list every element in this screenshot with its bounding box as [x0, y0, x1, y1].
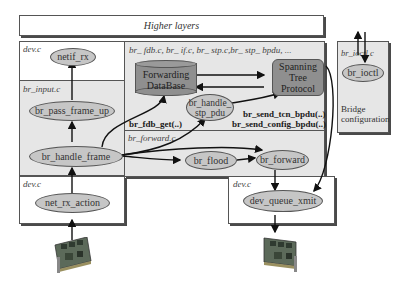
fdb-label-2: DataBase [135, 80, 197, 91]
bridge-files-label: br_ fdb.c, br_ if.c, br_ stp.c,br_ stp_ … [129, 45, 292, 55]
network-card-icon [262, 236, 304, 276]
netif-rx-text: netif_rx [57, 52, 89, 62]
dev-queue-xmit-text: dev_queue_xmit [250, 196, 317, 206]
br-input-c-label: br_input.c [23, 84, 60, 94]
bridge-config-label-2: configuration [341, 114, 390, 124]
br-forward-node: br_forward [256, 150, 309, 170]
dev-c-bottom-right-label: dev.c [233, 179, 251, 189]
br-send-config-bpdu-label: br_send_config_bpdu(..) [232, 119, 326, 129]
net-rx-action-node: net_rx_action [35, 193, 110, 213]
br-flood-node: br_flood [185, 151, 237, 170]
br-ioctl-node: br_ioctl [342, 64, 384, 82]
netif-rx-node: netif_rx [50, 48, 96, 66]
dev-queue-xmit-node: dev_queue_xmit [243, 190, 323, 212]
dev-c-top-label: dev.c [23, 44, 41, 54]
br-flood-text: br_flood [194, 156, 228, 166]
forwarding-database-node: Forwarding DataBase [135, 60, 197, 96]
br-send-tcn-bpdu-label: br_send_tcn_bpdu(..) [243, 109, 326, 119]
br-forward-text: br_forward [260, 155, 305, 165]
br-forward-divider [125, 130, 324, 131]
stp-label-1: Spanning [279, 61, 317, 72]
br-pass-frame-up-text: br_pass_frame_up [35, 106, 109, 116]
stp-label-3: Protocol [281, 83, 315, 94]
higher-layers-box: Higher layers [19, 15, 324, 36]
bridge-config-label-1: Bridge [341, 104, 366, 114]
stp-label-2: Tree [289, 72, 307, 83]
br-handle-frame-node: br_handle_frame [29, 146, 123, 167]
net-rx-action-text: net_rx_action [45, 198, 100, 208]
br-ioctl-c-region: br_ioctl.c Bridge configuration [337, 41, 389, 133]
spanning-tree-protocol-node: Spanning Tree Protocol [272, 59, 324, 96]
higher-layers-label: Higher layers [144, 20, 199, 31]
br-handle-stp-pdu-node: br_handle_ stp_pdu [186, 94, 234, 121]
network-card-icon [53, 237, 95, 277]
br-pass-frame-up-node: br_pass_frame_up [29, 101, 115, 121]
br-handle-frame-text: br_handle_frame [42, 152, 110, 162]
fdb-label-1: Forwarding [135, 69, 197, 80]
br-ioctl-c-label: br_ioctl.c [341, 48, 374, 58]
stp-pdu-label-1: br_handle_ [189, 98, 232, 108]
stp-pdu-label-2: stp_pdu [195, 108, 225, 118]
dev-c-bottom-left-label: dev.c [23, 179, 41, 189]
br-ioctl-text: br_ioctl [347, 68, 378, 78]
br-fdb-get-label: br_fdb_get(..) [129, 119, 182, 129]
br-forward-c-label: br_forward.c [128, 133, 175, 143]
